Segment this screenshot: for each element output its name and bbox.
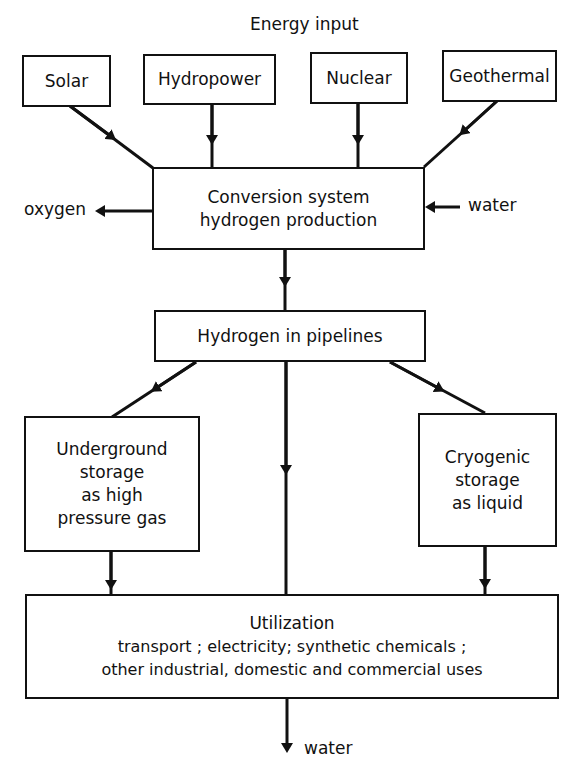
source-label: Solar bbox=[45, 70, 88, 93]
utilization-line2: other industrial, domestic and commercia… bbox=[101, 658, 482, 681]
utilization-box: Utilization transport ; electricity; syn… bbox=[25, 594, 559, 699]
cryogenic-line3: as liquid bbox=[452, 492, 523, 515]
underground-line4: pressure gas bbox=[58, 507, 167, 530]
source-label: Hydropower bbox=[158, 68, 261, 91]
oxygen-output-label: oxygen bbox=[24, 199, 86, 219]
cryogenic-storage-box: Cryogenic storage as liquid bbox=[418, 413, 557, 547]
underground-line2: storage bbox=[80, 461, 145, 484]
water-input-label: water bbox=[468, 195, 516, 215]
source-box-solar: Solar bbox=[22, 55, 111, 107]
hydrogen-pipelines-box: Hydrogen in pipelines bbox=[154, 310, 426, 362]
cryogenic-line1: Cryogenic bbox=[445, 446, 530, 469]
conversion-line1: Conversion system bbox=[207, 186, 369, 209]
conversion-system-box: Conversion system hydrogen production bbox=[152, 167, 425, 250]
underground-line1: Underground bbox=[56, 438, 167, 461]
source-box-nuclear: Nuclear bbox=[310, 52, 408, 104]
pipelines-label: Hydrogen in pipelines bbox=[197, 325, 382, 348]
source-box-hydropower: Hydropower bbox=[143, 54, 276, 105]
cryogenic-line2: storage bbox=[455, 469, 520, 492]
source-label: Nuclear bbox=[326, 67, 391, 90]
energy-input-title: Energy input bbox=[250, 14, 359, 34]
utilization-title: Utilization bbox=[249, 612, 334, 635]
underground-line3: as high bbox=[81, 484, 143, 507]
utilization-line1: transport ; electricity; synthetic chemi… bbox=[118, 635, 467, 658]
final-water-output-label: water bbox=[304, 738, 352, 758]
conversion-line2: hydrogen production bbox=[200, 209, 377, 232]
underground-storage-box: Underground storage as high pressure gas bbox=[24, 416, 200, 552]
source-label: Geothermal bbox=[449, 65, 549, 88]
source-box-geothermal: Geothermal bbox=[442, 50, 557, 102]
